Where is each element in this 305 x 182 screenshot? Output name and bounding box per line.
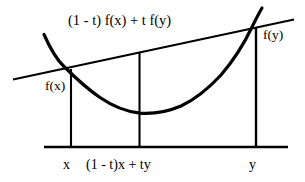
convexity-diagram: (1 - t) f(x) + t f(y) f(y) f(x) x (1 - t… [0, 0, 305, 182]
f-of-y-label: f(y) [263, 28, 283, 42]
axis-label-midpoint: (1 - t)x + ty [86, 158, 151, 172]
axis-label-y: y [249, 158, 256, 172]
chord-expression-label: (1 - t) f(x) + t f(y) [68, 13, 171, 28]
axis-label-x: x [63, 158, 70, 172]
f-of-x-label: f(x) [45, 79, 65, 93]
